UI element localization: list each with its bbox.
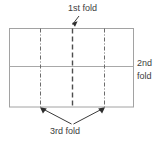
third-fold-arrow: [40, 107, 105, 124]
first-fold-label: 1st fold: [68, 3, 97, 14]
paper-folding-diagram: 1st fold 2nd fold 3rd fold: [0, 0, 166, 144]
third-fold-label: 3rd fold: [50, 126, 80, 137]
first-fold-arrow: [72, 16, 79, 27]
second-fold-label: 2nd fold: [137, 57, 152, 83]
second-fold-label-line1: 2nd: [137, 57, 152, 70]
second-fold-label-line2: fold: [137, 70, 152, 83]
paper-rectangle: [10, 29, 134, 108]
